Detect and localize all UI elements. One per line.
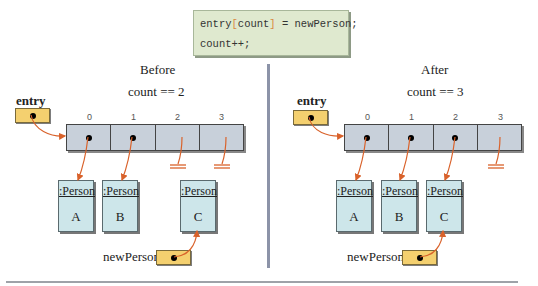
person-class: :Person [337, 184, 371, 199]
before-title: Before [140, 62, 175, 78]
person-name: A [337, 209, 371, 225]
reference-dot [417, 255, 423, 261]
code-assignment: = newPerson; [276, 18, 358, 30]
before-cell-1 [111, 125, 155, 150]
panel-divider [267, 64, 270, 268]
person-name: C [427, 209, 461, 225]
after-count-label: count == 3 [407, 84, 464, 100]
before-null-symbol-2 [170, 165, 186, 168]
reference-dot [408, 135, 414, 141]
after-index-1: 1 [409, 112, 414, 122]
person-name: B [103, 209, 137, 225]
before-index-3: 3 [219, 112, 224, 122]
code-index: count [238, 18, 270, 30]
after-cell-2 [434, 125, 478, 150]
after-cell-3 [478, 125, 521, 150]
code-snippet: entry[count] = newPerson; count++; [193, 10, 349, 56]
before-newperson-label: newPerson [103, 249, 160, 265]
code-line-2: count++; [200, 38, 250, 50]
after-person-a: :Person A [336, 180, 372, 232]
before-entry-variable [15, 108, 50, 123]
after-entry-label: entry [297, 93, 327, 109]
after-cell-1 [389, 125, 433, 150]
before-count-label: count == 2 [128, 84, 185, 100]
after-cell-0 [345, 125, 389, 150]
reference-dot [308, 115, 314, 121]
before-entry-label: entry [16, 93, 46, 109]
after-index-0: 0 [365, 112, 370, 122]
person-class: :Person [103, 184, 137, 199]
before-index-0: 0 [87, 112, 92, 122]
reference-dot [130, 135, 136, 141]
person-class: :Person [59, 184, 93, 199]
after-index-2: 2 [453, 112, 458, 122]
bottom-rule [6, 281, 518, 283]
code-line-1: entry[count] = newPerson; [200, 18, 358, 30]
before-newperson-variable [156, 250, 191, 265]
person-class: :Person [181, 184, 215, 199]
after-person-c: :Person C [426, 180, 462, 232]
person-name: A [59, 209, 93, 225]
after-null-symbol-3 [488, 165, 504, 168]
before-index-1: 1 [131, 112, 136, 122]
person-name: B [382, 209, 416, 225]
before-person-c: :Person C [180, 180, 216, 232]
after-array [344, 124, 522, 151]
reference-dot [86, 135, 92, 141]
before-array [66, 124, 244, 151]
before-cell-0 [67, 125, 111, 150]
after-title: After [421, 62, 448, 78]
before-index-2: 2 [175, 112, 180, 122]
array-assignment-diagram: entry[count] = newPerson; count++; Befor… [0, 0, 538, 286]
person-class: :Person [427, 184, 461, 199]
before-cell-3 [200, 125, 243, 150]
before-person-a: :Person A [58, 180, 94, 232]
after-newperson-variable [402, 250, 437, 265]
after-newperson-label: newPerson [347, 249, 404, 265]
before-person-b: :Person B [102, 180, 138, 232]
reference-dot [452, 135, 458, 141]
code-entry: entry [200, 18, 232, 30]
reference-dot [171, 255, 177, 261]
reference-dot [364, 135, 370, 141]
after-entry-variable [293, 110, 328, 125]
after-person-b: :Person B [381, 180, 417, 232]
person-class: :Person [382, 184, 416, 199]
after-index-3: 3 [498, 112, 503, 122]
person-name: C [181, 209, 215, 225]
before-null-symbol-3 [214, 165, 230, 168]
reference-dot [30, 113, 36, 119]
before-cell-2 [156, 125, 200, 150]
